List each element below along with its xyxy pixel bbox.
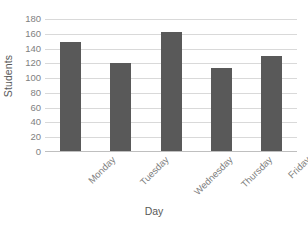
y-axis-tick-label: 100 xyxy=(25,73,41,83)
x-axis-tick-label: Wednesday xyxy=(192,154,235,197)
y-axis-tick-labels: 180160140120100806040200 xyxy=(16,12,43,156)
x-axis-tick-label: Thursday xyxy=(239,154,275,190)
x-axis-tick-label: Friday xyxy=(286,154,308,180)
y-axis-tick-label: 40 xyxy=(30,118,41,128)
plot-area xyxy=(45,19,297,152)
y-axis-tick-label: 20 xyxy=(30,132,41,142)
bar-chart: Students 180160140120100806040200 Monday… xyxy=(0,0,308,231)
y-axis-tick-label: 120 xyxy=(25,59,41,69)
x-axis-tick-label: Tuesday xyxy=(137,154,170,187)
y-axis-title: Students xyxy=(0,0,16,152)
x-axis-tick-label: Monday xyxy=(86,154,118,186)
bar xyxy=(60,42,81,152)
x-axis-tick-labels: MondayTuesdayWednesdayThursdayFriday xyxy=(45,154,297,200)
bar xyxy=(161,32,182,152)
x-axis-title: Day xyxy=(0,205,308,217)
y-axis-tick-label: 180 xyxy=(25,14,41,24)
y-axis-tick-label: 140 xyxy=(25,44,41,54)
bar xyxy=(211,68,232,152)
axis-baseline xyxy=(45,151,297,152)
y-axis-tick-label: 160 xyxy=(25,29,41,39)
y-axis-tick-label: 60 xyxy=(30,103,41,113)
y-axis-tick-label: 80 xyxy=(30,88,41,98)
y-axis-title-label: Students xyxy=(2,55,14,97)
bar xyxy=(261,56,282,152)
y-axis-tick-label: 0 xyxy=(36,147,41,157)
bars-layer xyxy=(45,19,297,152)
bar xyxy=(110,63,131,152)
